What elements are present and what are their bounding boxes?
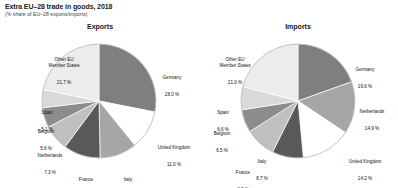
imports-label-other-value: 21.0 % xyxy=(211,80,259,86)
figure-container: Extra EU–28 trade in goods, 2018 (% shar… xyxy=(0,0,398,188)
exports-label-netherlands: Netherlands 7.3 % xyxy=(28,142,72,187)
exports-label-france-name: France xyxy=(70,177,102,183)
exports-label-spain-name: Spain xyxy=(30,110,64,116)
imports-label-italy-name: Italy xyxy=(249,159,275,165)
exports-label-italy: Italy 10.5 % xyxy=(114,166,142,188)
imports-label-uk-value: 14.2 % xyxy=(341,176,389,182)
exports-label-uk: United Kingdom 11.0 % xyxy=(150,134,198,179)
imports-label-italy-value: 8.7 % xyxy=(249,176,275,182)
exports-label-other: Other EU Member States 21.7 % xyxy=(41,46,87,96)
exports-label-italy-name: Italy xyxy=(114,177,142,183)
exports-label-other-name: Other EU Member States xyxy=(41,57,87,68)
page-subtitle: (% share of EU–28 exports/imports) xyxy=(5,11,87,18)
imports-label-uk-name: United Kingdom xyxy=(341,159,389,165)
exports-label-belgium-name: Belgium xyxy=(28,129,64,135)
imports-label-italy: Italy 8.7 % xyxy=(249,148,275,188)
imports-label-netherlands-name: Netherlands xyxy=(350,109,394,115)
imports-label-uk: United Kingdom 14.2 % xyxy=(341,148,389,188)
exports-label-germany-name: Germany xyxy=(152,75,192,81)
pie-slice xyxy=(99,44,156,112)
imports-label-germany: Germany 19.6 % xyxy=(345,56,385,101)
exports-label-other-value: 21.7 % xyxy=(41,80,87,86)
imports-label-germany-name: Germany xyxy=(345,67,385,73)
imports-label-netherlands: Netherlands 14.9 % xyxy=(350,98,394,143)
exports-label-france: France 10.4 % xyxy=(70,166,102,188)
imports-label-netherlands-value: 14.9 % xyxy=(350,126,394,132)
imports-label-spain-name: Spain xyxy=(206,110,240,116)
imports-label-belgium-value: 6.5 % xyxy=(204,148,240,154)
exports-label-uk-value: 11.0 % xyxy=(150,162,198,168)
imports-label-germany-value: 19.6 % xyxy=(345,84,385,90)
imports-label-other-name: Other EU Member States xyxy=(211,57,259,68)
exports-label-germany-value: 28.0 % xyxy=(152,92,192,98)
exports-label-netherlands-value: 7.3 % xyxy=(28,170,72,176)
exports-label-germany: Germany 28.0 % xyxy=(152,64,192,109)
imports-label-other: Other EU Member States 21.0 % xyxy=(211,46,259,96)
exports-label-uk-name: United Kingdom xyxy=(150,145,198,151)
imports-label-belgium-name: Belgium xyxy=(204,131,240,137)
page-title: Extra EU–28 trade in goods, 2018 xyxy=(5,2,112,11)
exports-label-netherlands-name: Netherlands xyxy=(28,153,72,159)
